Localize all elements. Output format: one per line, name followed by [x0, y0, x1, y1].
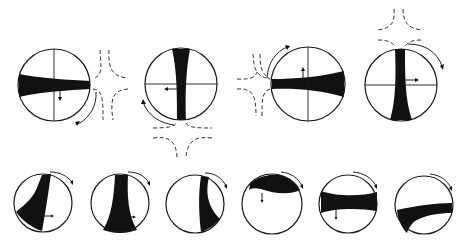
diagram-figure: [0, 0, 465, 248]
deformation-band: [390, 49, 412, 120]
arrow-right-icon: [405, 78, 419, 82]
top-panel-3: [237, 45, 345, 121]
stagnation-flow-lines: [378, 9, 421, 47]
arrow-down-icon: [261, 193, 264, 203]
deformation-band: [103, 175, 137, 233]
rotation-arrow-icon: [50, 172, 73, 185]
top-panel-2: [141, 48, 217, 157]
arrow-left-icon: [164, 87, 178, 91]
top-panel-4: [365, 9, 444, 121]
bottom-panel-2: [91, 172, 150, 233]
cell-circle: [166, 175, 224, 233]
rotation-arrow-icon: [408, 44, 444, 70]
rotation-arrow-icon: [430, 174, 452, 191]
bottom-panel-5: [319, 172, 377, 233]
stagnation-flow-lines: [237, 54, 270, 116]
arrow-right-icon: [44, 215, 54, 218]
stagnation-flow-lines: [153, 123, 212, 157]
bottom-panel-6: [395, 174, 453, 234]
deformation-band: [397, 203, 452, 233]
deformation-band: [19, 74, 90, 97]
deformation-band: [321, 191, 377, 213]
rotation-arrow-icon: [128, 172, 150, 186]
rotation-arrow-icon: [205, 173, 227, 189]
bottom-panel-1: [14, 172, 73, 232]
bottom-panel-3: [166, 173, 227, 233]
top-panel-1: [18, 49, 128, 126]
arrow-down-icon: [335, 210, 338, 220]
rotation-arrow-icon: [75, 92, 96, 126]
stagnation-flow-lines: [93, 50, 128, 120]
bottom-panel-4: [242, 172, 303, 234]
deformation-band: [172, 49, 190, 120]
